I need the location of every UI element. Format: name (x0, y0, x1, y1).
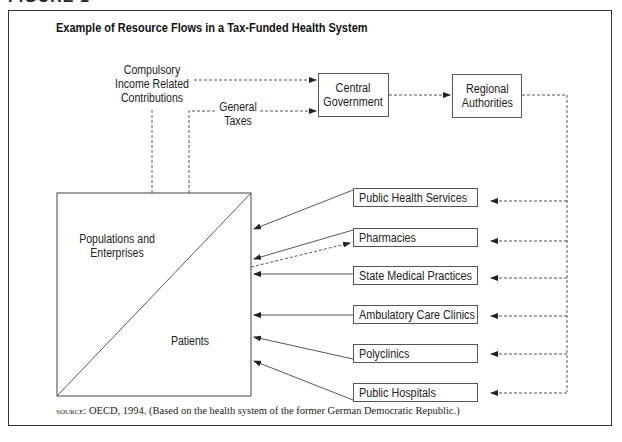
compulsory-contributions-label: Compulsory Income Related Contributions (110, 63, 194, 105)
source-note: SOURCE: OECD, 1994. (Based on the health… (56, 405, 460, 416)
provider-ambulatory-care-clinics: Ambulatory Care Clinics (353, 305, 478, 324)
populations-enterprises-label: Populations and Enterprises (79, 232, 155, 260)
population-to-pharmacies-arrow (251, 243, 350, 267)
provider-pharmacies: Pharmacies (353, 228, 478, 247)
provider-public-hospitals: Public Hospitals (353, 383, 478, 402)
provider-polyclinics: Polyclinics (353, 344, 478, 363)
provider-state-medical-practices: State Medical Practices (353, 266, 478, 285)
patients-label: Patients (168, 334, 212, 348)
flow-connectors (0, 0, 622, 442)
source-prefix: SOURCE: (56, 405, 86, 416)
central-government-box: Central Government (318, 73, 389, 117)
general-taxes-line (189, 111, 216, 193)
regional-authorities-box: Regional Authorities (452, 74, 522, 118)
general-taxes-label: General Taxes (219, 100, 258, 128)
regional-distribution-line (522, 95, 567, 392)
source-text: OECD, 1994. (Based on the health system … (86, 405, 459, 416)
diagonal-divider (57, 193, 251, 396)
provider-public-health-services: Public Health Services (353, 188, 478, 207)
